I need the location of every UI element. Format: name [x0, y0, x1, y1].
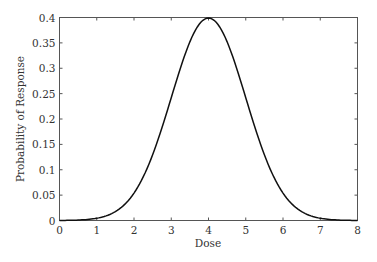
x-tick-label: 4: [205, 224, 212, 236]
x-tick-label: 8: [354, 224, 361, 236]
y-axis-label: Probability of Response: [14, 56, 26, 182]
y-tick-label: 0.3: [39, 62, 56, 74]
x-tick-label: 2: [131, 224, 138, 236]
y-tick-label: 0: [49, 215, 56, 227]
x-tick-label: 7: [317, 224, 324, 236]
y-tick-label: 0.35: [32, 37, 55, 49]
y-tick-label: 0.4: [39, 12, 56, 24]
x-axis-label: Dose: [195, 237, 221, 249]
x-tick-label: 3: [168, 224, 175, 236]
y-tick-label: 0.15: [32, 138, 55, 150]
x-tick-label: 6: [280, 224, 287, 236]
response-curve: [60, 18, 358, 220]
y-tick-label: 0.25: [32, 88, 55, 100]
y-tick-label: 0.1: [39, 164, 56, 176]
y-tick-label: 0.05: [32, 189, 55, 201]
plot-area: [60, 18, 358, 221]
x-tick-label: 0: [56, 224, 63, 236]
y-tick-label: 0.2: [39, 113, 56, 125]
x-tick-label: 5: [242, 224, 249, 236]
chart: 01234567800.050.10.150.20.250.30.350.4 D…: [0, 0, 377, 262]
x-tick-label: 1: [93, 224, 100, 236]
